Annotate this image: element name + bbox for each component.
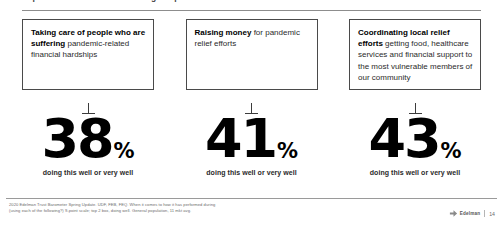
arrow-icon — [449, 209, 458, 218]
stat-number: 38 — [41, 114, 112, 164]
stat-caption: doing this well or very well — [22, 169, 154, 176]
brand-wordmark: Edelman — [460, 211, 481, 216]
stat-cell-2: 41% doing this well or very well — [186, 114, 318, 176]
stat-value-row: 41% — [186, 114, 318, 164]
clipped-headline-text: Expectations of business during the pand… — [0, 0, 503, 3]
stat-value-row: 43% — [349, 114, 481, 164]
stat-cell-3: 43% doing this well or very well — [349, 114, 481, 176]
edelman-logo: Edelman — [449, 209, 481, 218]
brand-separator — [484, 210, 485, 217]
statement-box-coordinating-local-relief: Coordinating local relief efforts gettin… — [349, 19, 481, 90]
stat-group: 38% doing this well or very well 41% doi… — [22, 114, 481, 176]
statement-lead: Raising money — [195, 28, 252, 37]
stat-value-row: 38% — [22, 114, 154, 164]
stat-cell-1: 38% doing this well or very well — [22, 114, 154, 176]
source-footnote-line-2: (using each of the following?) 9-point s… — [9, 208, 409, 214]
brand-and-page: Edelman 14 — [449, 209, 495, 218]
stat-number: 43 — [368, 114, 439, 164]
percent-symbol: % — [277, 138, 298, 164]
percent-symbol: % — [441, 138, 462, 164]
statement-box-taking-care-of-people: Taking care of people who are suffering … — [22, 19, 154, 90]
statement-text: Coordinating local relief efforts gettin… — [358, 27, 473, 83]
stat-caption: doing this well or very well — [186, 169, 318, 176]
source-footnote: 2020 Edelman Trust Barometer Spring Upda… — [9, 202, 409, 213]
clipped-headline: Expectations of business during the pand… — [0, 0, 503, 5]
statement-text: Taking care of people who are suffering … — [31, 27, 146, 61]
stat-caption: doing this well or very well — [349, 169, 481, 176]
statement-text: Raising money for pandemic relief effort… — [195, 27, 310, 49]
statement-box-group: Taking care of people who are suffering … — [22, 19, 481, 90]
stat-number: 41 — [205, 114, 276, 164]
header-divider — [22, 10, 481, 11]
footer-divider — [6, 198, 497, 199]
page-number: 14 — [489, 211, 495, 217]
percent-symbol: % — [114, 138, 135, 164]
statement-box-raising-money: Raising money for pandemic relief effort… — [186, 19, 318, 90]
